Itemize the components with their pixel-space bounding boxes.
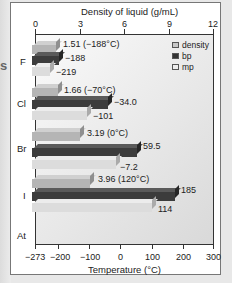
bottom-tick-label: 200 [176,252,191,262]
category-label: At [17,230,26,241]
bottom-tick [183,245,184,249]
bar-mp-Br [32,160,116,169]
bottom-tick-label: 300 [206,252,221,262]
value-label: −219 [56,67,76,77]
bottom-tick [120,245,121,249]
bottom-tick-label: 100 [145,252,160,262]
bottom-axis-title: Temperature (°C) [88,264,161,275]
bottom-tick [152,245,153,249]
value-label: −101 [93,111,113,121]
value-label: −188 [65,53,85,63]
value-label: −7.2 [120,162,138,172]
value-label: 1.66 (−70°C) [64,85,115,95]
top-tick-label: 6 [122,19,127,29]
bottom-tick-label: −100 [80,252,100,262]
bottom-tick [89,245,90,249]
top-tick-label: 12 [208,19,218,29]
page-fragment-text: s [0,58,7,73]
value-label: 185 [181,185,196,195]
bar-mp-F [32,67,50,76]
category-label: Cl [17,98,26,109]
value-label: −34.0 [114,97,137,107]
value-label: 1.51 (−188°C) [63,39,119,49]
value-label: 59.5 [143,141,161,151]
bottom-tick-label: 0 [118,252,123,262]
top-axis-title: Density of liquid (g/mL) [81,6,178,17]
bar-density-I [32,179,90,188]
bottom-tick-label: −200 [50,252,70,262]
bar-mp-I [32,203,152,212]
value-label: 114 [158,204,172,214]
top-tick-label: 3 [78,19,83,29]
value-label: 3.19 (0°C) [87,128,128,138]
bottom-tick [35,245,36,249]
top-tick-label: 9 [167,19,172,29]
bar-mp-Cl [32,111,87,120]
category-label: Br [17,143,27,154]
bar-density-Br [32,132,80,141]
category-label: F [20,56,26,67]
mp-swatch-icon [172,64,179,70]
value-label: 3.96 (120°C) [98,174,149,184]
category-label: I [23,190,26,201]
bottom-tick [58,245,59,249]
top-tick-label: 0 [33,19,38,29]
bottom-tick-label: −273 [25,252,45,262]
bp-swatch-icon [172,53,179,59]
density-swatch-icon [172,42,179,48]
bottom-tick [213,245,214,249]
